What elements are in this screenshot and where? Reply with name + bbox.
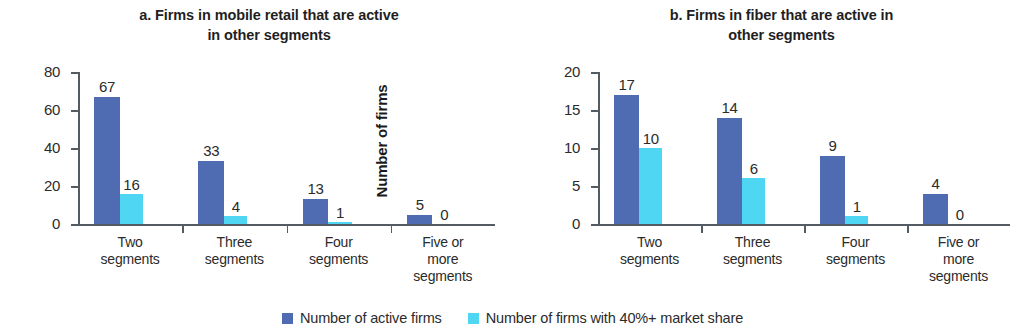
x-axis-category-line: segments [929,268,988,284]
chart-title-b: b. Firms in fiber that are active in oth… [552,6,1011,45]
bar-value-label: 5 [416,196,424,213]
bar-value-label: 1 [853,198,861,215]
x-axis-category-label: Threesegments [701,234,804,268]
chart-title-b-line2: other segments [728,27,835,43]
bar-active-firms[interactable]: 33 [198,161,224,224]
y-axis-tick: 20 [71,186,78,188]
bar-active-firms[interactable]: 67 [94,97,120,224]
bar-active-firms[interactable]: 14 [717,118,742,224]
x-axis-category-line: Five or [938,234,979,250]
x-axis-tick [182,224,184,233]
bar-active-firms[interactable]: 17 [614,95,639,224]
x-axis-category-label: Twosegments [78,234,182,268]
bar-value-label: 67 [99,78,115,95]
bar-market-share[interactable]: 6 [742,178,765,224]
bar-value-label: 9 [829,137,837,154]
y-axis-tick: 60 [71,110,78,112]
y-axis-tick-label: 10 [564,139,580,156]
x-axis-category-line: segments [101,251,160,267]
bar-value-label: 4 [232,198,240,215]
bar-active-firms[interactable]: 5 [407,215,433,225]
legend-label-active-firms: Number of active firms [300,310,442,326]
x-axis-category-label: Five ormoresegments [391,234,495,285]
y-axis-tick-label: 60 [44,101,60,118]
bar-value-label: 0 [440,206,448,223]
x-axis-category-line: Five or [422,234,463,250]
x-axis-category-line: segments [620,251,679,267]
bar-value-label: 0 [956,206,964,223]
y-axis-tick-label: 0 [52,215,60,232]
x-axis-category-label: Threesegments [182,234,286,268]
bar-value-label: 1 [336,204,344,221]
y-axis-tick-label: 20 [44,177,60,194]
bar-group: 1710 [598,72,701,224]
bar-value-label: 17 [619,76,635,93]
bar-value-label: 4 [932,175,940,192]
x-axis-category-line: Three [735,234,771,250]
bar-group: 146 [701,72,804,224]
y-axis-tick: 0 [591,224,598,226]
y-axis-tick: 80 [71,72,78,74]
bar-value-label: 33 [203,142,219,159]
chart-title-b-line1: b. Firms in fiber that are active in [670,7,894,23]
bar-value-label: 16 [123,176,139,193]
y-axis-tick-label: 40 [44,139,60,156]
y-axis-tick: 10 [591,148,598,150]
x-axis-category-label: Twosegments [598,234,701,268]
legend-item-active-firms: Number of active firms [282,310,442,326]
bar-group: 50 [391,72,495,224]
x-axis-category-line: more [427,251,458,267]
x-axis-category-line: segments [413,268,472,284]
x-axis-category-line: Three [217,234,253,250]
plot-area-a: 020406080671633413150 [78,72,495,224]
bar-group: 91 [804,72,907,224]
bar-group: 334 [182,72,286,224]
y-axis-tick-label: 80 [44,63,60,80]
bar-value-label: 14 [722,99,738,116]
plot-area-b: 0510152017101469140 [598,72,1010,224]
y-axis-tick-label: 20 [564,63,580,80]
bar-active-firms[interactable]: 4 [923,194,948,224]
legend-item-market-share: Number of firms with 40%+ market share [468,310,743,326]
y-axis-tick-label: 0 [572,215,580,232]
x-axis-category-line: Four [842,234,870,250]
x-axis-category-line: Two [637,234,662,250]
bar-market-share[interactable]: 16 [120,194,143,224]
x-axis-tick [287,224,289,233]
legend-swatch-primary-icon [282,313,293,324]
x-axis-category-label: Five ormoresegments [907,234,1010,285]
x-axis-category-label: Foursegments [287,234,391,268]
bar-active-firms[interactable]: 13 [303,199,329,224]
bar-value-label: 6 [750,160,758,177]
chart-legend: Number of active firms Number of firms w… [0,310,1025,326]
bar-market-share[interactable]: 1 [845,216,868,224]
x-axis-category-line: segments [826,251,885,267]
x-axis-category-line: more [943,251,974,267]
y-axis-tick-label: 5 [572,177,580,194]
bar-group: 40 [907,72,1010,224]
chart-title-a: a. Firms in mobile retail that are activ… [40,6,498,45]
chart-title-a-line1: a. Firms in mobile retail that are activ… [139,7,398,23]
bar-market-share[interactable]: 10 [639,148,662,224]
bar-market-share[interactable]: 4 [224,216,247,224]
chart-title-a-line2: in other segments [207,27,330,43]
legend-swatch-secondary-icon [468,313,479,324]
y-axis-tick: 15 [591,110,598,112]
bar-active-firms[interactable]: 9 [820,156,845,224]
x-axis-tick [804,224,806,233]
x-axis-category-line: segments [723,251,782,267]
y-axis-tick: 5 [591,186,598,188]
x-axis-category-line: segments [205,251,264,267]
y-axis-tick: 40 [71,148,78,150]
y-axis-label-b: Number of firms [373,56,395,226]
y-axis-tick: 20 [591,72,598,74]
bar-market-share[interactable]: 1 [328,222,351,224]
y-axis-tick: 0 [71,224,78,226]
bar-value-label: 13 [307,180,323,197]
x-axis-tick [701,224,703,233]
x-axis-category-line: Four [325,234,353,250]
x-axis-tick [907,224,909,233]
bar-group: 6716 [78,72,182,224]
y-axis-tick-label: 15 [564,101,580,118]
bar-value-label: 10 [643,130,659,147]
